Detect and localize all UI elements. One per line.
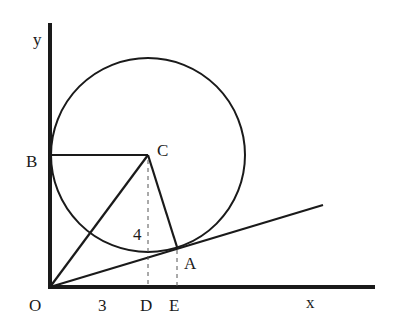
label-length-od: 3: [98, 296, 107, 315]
label-point-c: C: [157, 141, 168, 160]
tangent-line-oa: [50, 205, 323, 287]
label-y-axis: y: [33, 30, 42, 49]
label-x-axis: x: [306, 293, 315, 312]
label-point-d: D: [140, 296, 152, 315]
label-point-b: B: [26, 152, 37, 171]
geometry-diagram: y x O B C A D E 3 4: [0, 0, 403, 328]
label-point-a: A: [184, 254, 197, 273]
label-length-cd: 4: [133, 225, 142, 244]
segment-oc: [50, 155, 148, 287]
label-point-e: E: [169, 296, 179, 315]
segment-ca: [148, 155, 177, 247]
label-origin: O: [29, 296, 41, 315]
